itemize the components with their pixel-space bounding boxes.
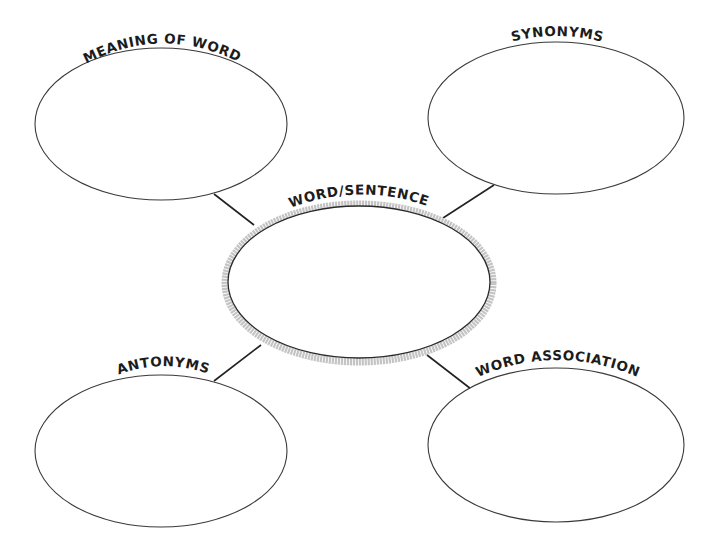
synonyms-label: SYNONYMS: [509, 23, 605, 45]
bubble-meaning-of-word[interactable]: MEANING OF WORD: [35, 30, 287, 200]
word-association-ellipse[interactable]: [428, 368, 684, 522]
word-sentence-ellipse[interactable]: [228, 206, 490, 358]
connector-association: [427, 355, 471, 389]
word-map-diagram: MEANING OF WORD SYNONYMS WORD/SENTENCE A…: [0, 0, 715, 550]
meaning-of-word-ellipse[interactable]: [35, 48, 287, 200]
bubble-word-association[interactable]: WORD ASSOCIATION: [428, 347, 684, 522]
synonyms-ellipse[interactable]: [428, 42, 684, 194]
connector-synonyms: [443, 185, 494, 218]
connector-antonyms: [214, 345, 261, 381]
bubble-antonyms[interactable]: ANTONYMS: [35, 353, 287, 527]
bubble-synonyms[interactable]: SYNONYMS: [428, 23, 684, 194]
antonyms-label: ANTONYMS: [114, 353, 211, 377]
bubble-word-sentence[interactable]: WORD/SENTENCE: [225, 181, 493, 362]
connector-meaning: [214, 194, 254, 225]
antonyms-ellipse[interactable]: [35, 375, 287, 527]
